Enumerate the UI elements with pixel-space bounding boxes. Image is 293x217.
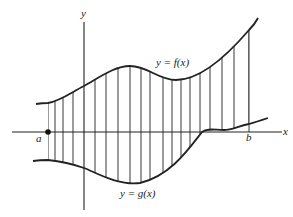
f-curve-label: y = f(x) <box>155 56 189 69</box>
b-label: b <box>246 131 252 143</box>
x-axis-label: x <box>282 125 288 137</box>
area-between-curves-diagram: y x a b y = f(x) y = g(x) <box>0 0 293 217</box>
a-label: a <box>36 132 42 144</box>
curve-g <box>33 118 268 183</box>
y-axis-label: y <box>80 7 86 19</box>
g-curve-label: y = g(x) <box>119 187 156 200</box>
curve-f <box>36 18 258 104</box>
point-a <box>45 129 51 135</box>
